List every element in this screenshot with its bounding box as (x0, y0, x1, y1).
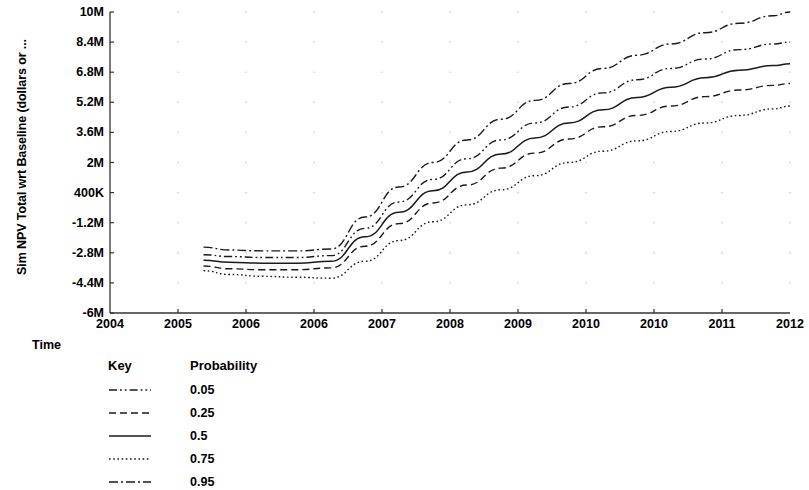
grid-dot (517, 72, 518, 73)
grid-dot (789, 252, 790, 253)
series-line-0.95 (204, 12, 791, 251)
grid-dot (313, 41, 314, 42)
x-tick-label: 2008 (415, 317, 485, 331)
grid-dot (313, 72, 314, 73)
legend-probability-value: 0.95 (190, 470, 257, 490)
grid-dot (653, 162, 654, 163)
grid-dot (245, 132, 246, 133)
grid-dot (313, 102, 314, 103)
grid-dot (721, 252, 722, 253)
legend-probability-value: 0.75 (190, 447, 257, 470)
grid-dot (653, 282, 654, 283)
legend-table: Key Probability 0.050.250.50.750.95 (108, 358, 257, 490)
x-tick-label: 2011 (687, 317, 757, 331)
legend-key-swatch-cell (108, 447, 190, 470)
grid-dot (585, 132, 586, 133)
grid-dot (381, 192, 382, 193)
legend-row: 0.5 (108, 424, 257, 447)
grid-dot (449, 102, 450, 103)
grid-dot (245, 41, 246, 42)
grid-dot (381, 252, 382, 253)
grid-dot (789, 72, 790, 73)
grid-dot (653, 222, 654, 223)
legend-line-sample-0.05 (108, 385, 152, 394)
grid-dot (313, 192, 314, 193)
grid-dot (585, 102, 586, 103)
legend-line-sample-0.25 (108, 408, 152, 417)
legend-probability-value: 0.25 (190, 401, 257, 424)
grid-dot (245, 72, 246, 73)
grid-dot (585, 41, 586, 42)
grid-dot (313, 132, 314, 133)
grid-dot (789, 102, 790, 103)
grid-dot (177, 282, 178, 283)
grid-dot (177, 11, 178, 12)
x-tick-label: 2006 (211, 317, 281, 331)
x-tick-label: 2010 (551, 317, 621, 331)
grid-dot (245, 222, 246, 223)
grid-dot (721, 72, 722, 73)
grid-dot (177, 252, 178, 253)
grid-dot (449, 192, 450, 193)
grid-dot (449, 252, 450, 253)
grid-dot (449, 41, 450, 42)
x-tick-label: 2012 (755, 317, 809, 331)
grid-dot (313, 222, 314, 223)
grid-dots (177, 11, 790, 283)
series-line-0.05 (204, 106, 791, 278)
grid-dot (245, 102, 246, 103)
grid-dot (381, 162, 382, 163)
legend-row: 0.05 (108, 378, 257, 401)
grid-dot (653, 132, 654, 133)
grid-dot (517, 102, 518, 103)
grid-dot (313, 162, 314, 163)
grid-dot (245, 11, 246, 12)
grid-dot (721, 41, 722, 42)
grid-dot (585, 282, 586, 283)
legend: Key Probability 0.050.250.50.750.95 (108, 358, 257, 490)
grid-dot (585, 252, 586, 253)
legend-key-swatch-cell (108, 378, 190, 401)
grid-dot (177, 162, 178, 163)
grid-dot (653, 192, 654, 193)
grid-dot (245, 252, 246, 253)
x-tick-label: 2009 (483, 317, 553, 331)
grid-dot (721, 11, 722, 12)
grid-dot (449, 282, 450, 283)
grid-dot (653, 41, 654, 42)
x-axis-label-wrap: Time (0, 338, 809, 352)
grid-dot (721, 162, 722, 163)
grid-dot (653, 11, 654, 12)
legend-key-swatch-cell (108, 424, 190, 447)
legend-row: 0.75 (108, 447, 257, 470)
legend-key-swatch-cell (108, 470, 190, 490)
grid-dot (789, 162, 790, 163)
grid-dot (789, 282, 790, 283)
grid-dot (177, 41, 178, 42)
grid-dot (381, 11, 382, 12)
x-tick-label: 2006 (279, 317, 349, 331)
grid-dot (381, 41, 382, 42)
x-tick-label: 2004 (75, 317, 145, 331)
grid-dot (517, 252, 518, 253)
x-tick-label: 2005 (143, 317, 213, 331)
legend-row: 0.95 (108, 470, 257, 490)
grid-dot (517, 162, 518, 163)
grid-dot (517, 222, 518, 223)
grid-dot (449, 162, 450, 163)
legend-key-swatch-cell (108, 401, 190, 424)
legend-line-sample-0.75 (108, 454, 152, 463)
legend-probability-value: 0.5 (190, 424, 257, 447)
grid-dot (789, 132, 790, 133)
legend-probability-value: 0.05 (190, 378, 257, 401)
grid-dot (517, 11, 518, 12)
grid-dot (313, 252, 314, 253)
grid-dot (517, 41, 518, 42)
grid-dot (789, 192, 790, 193)
grid-dot (313, 11, 314, 12)
grid-dot (585, 162, 586, 163)
grid-dot (585, 222, 586, 223)
grid-dot (449, 132, 450, 133)
series-line-0.75 (204, 42, 791, 257)
grid-dot (449, 11, 450, 12)
